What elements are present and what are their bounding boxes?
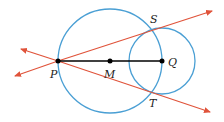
geometry-diagram: P M Q S T	[0, 0, 224, 122]
label-Q: Q	[168, 56, 177, 69]
point-P	[56, 59, 61, 64]
point-Q	[160, 59, 165, 64]
label-M: M	[103, 68, 116, 81]
label-S: S	[150, 13, 158, 26]
label-P: P	[49, 68, 58, 81]
tangent-line-PS-back	[21, 49, 58, 61]
label-T: T	[149, 97, 158, 110]
point-M	[108, 59, 113, 64]
